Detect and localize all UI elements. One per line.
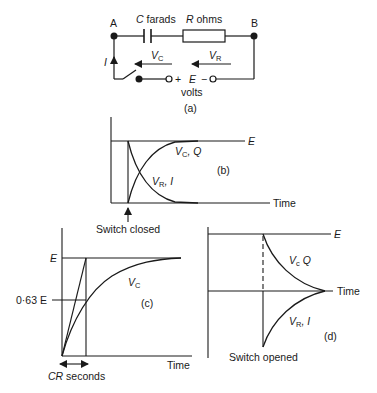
resistor-label: R ohms <box>186 13 222 25</box>
graph-c-vc-label: VC <box>128 276 141 290</box>
graph-b-vc-label: VC, Q <box>175 145 201 159</box>
volts-label: volts <box>181 86 203 98</box>
minus-label: − <box>201 73 207 85</box>
minus-terminal <box>210 76 216 82</box>
node-b-dot <box>251 33 258 40</box>
plus-terminal <box>166 76 172 82</box>
switch-contact <box>136 76 143 83</box>
caption-a: (a) <box>184 102 197 114</box>
switch-opened-label: Switch opened <box>229 351 298 363</box>
resistor <box>183 30 225 42</box>
current-label: I <box>104 56 107 68</box>
switch-closed-label: Switch closed <box>96 223 160 235</box>
capacitor-label: C farads <box>136 13 176 25</box>
graph-b-e-label: E <box>248 135 256 147</box>
vc-charge-curve-c <box>62 258 181 356</box>
graph-d-vc-label: Vc Q <box>289 254 311 268</box>
graph-c-tau-level-label: 0·63 E <box>16 294 47 306</box>
graph-b-vr-label: VR, I <box>152 175 173 189</box>
vc-label: VC <box>151 49 164 63</box>
graph-d-time-label: Time <box>337 285 360 297</box>
graph-d-e-label: E <box>334 228 342 240</box>
source-label: E <box>189 73 197 85</box>
graph-c <box>52 228 192 364</box>
caption-c: (c) <box>141 297 153 309</box>
rc-circuit-figure: A B C farads R ohms I VC VR + E − volts … <box>0 0 377 393</box>
node-a-dot <box>111 33 118 40</box>
caption-b: (b) <box>217 164 230 176</box>
graph-c-e-label: E <box>50 252 58 264</box>
graph-d <box>208 227 333 358</box>
switch-blade <box>123 70 136 79</box>
vr-label: VR <box>209 49 222 63</box>
circuit-diagram <box>114 29 254 79</box>
caption-d: (d) <box>324 330 337 342</box>
graph-c-time-label: Time <box>167 359 190 371</box>
graph-b-time-label: Time <box>273 197 296 209</box>
node-a-label: A <box>110 17 117 29</box>
node-b-label: B <box>251 17 258 29</box>
plus-label: + <box>175 73 181 85</box>
graph-b <box>111 117 270 222</box>
cr-seconds-label: CR seconds <box>48 370 105 382</box>
graph-d-vr-label: VR, I <box>289 315 310 329</box>
